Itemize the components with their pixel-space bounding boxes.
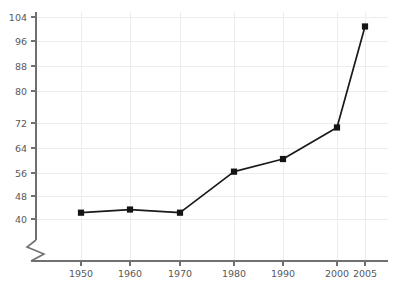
x-tick-label-2005: 2005 [353,268,377,279]
data-point-2000 [334,124,340,130]
line-chart: 104 96 88 80 72 64 56 48 40 1950 1960 19… [0,0,393,301]
data-point-1990 [280,156,286,162]
y-tick-label-56: 56 [15,168,27,179]
x-tick-label-1980: 1980 [222,268,246,279]
y-tick-label-64: 64 [15,143,27,154]
y-tick-label-72: 72 [15,118,27,129]
data-point-2005 [362,23,368,29]
y-tick-label-80: 80 [15,86,27,97]
x-tick-label-1950: 1950 [69,268,93,279]
y-tick-label-96: 96 [15,36,27,47]
data-point-1980 [231,169,237,175]
y-axis [27,12,44,261]
series-line [81,26,365,212]
data-point-1970 [177,210,183,216]
series-markers [78,23,368,215]
x-tick-label-2000: 2000 [325,268,349,279]
x-tick-label-1960: 1960 [118,268,142,279]
x-axis [31,261,388,266]
y-tick-label-88: 88 [15,61,27,72]
data-series-group [78,23,368,215]
y-tick-label-40: 40 [15,214,27,225]
y-tick-label-104: 104 [9,12,27,23]
chart-canvas: 104 96 88 80 72 64 56 48 40 1950 1960 19… [0,0,393,301]
y-tick-labels: 104 96 88 80 72 64 56 48 40 [9,12,27,225]
data-point-1950 [78,210,84,216]
x-tick-labels: 1950 1960 1970 1980 1990 2000 2005 [69,268,377,279]
y-tick-label-48: 48 [15,191,27,202]
y-axis-break-icon [27,240,44,261]
x-tick-label-1970: 1970 [168,268,192,279]
data-point-1960 [127,206,133,212]
x-tick-label-1990: 1990 [271,268,295,279]
